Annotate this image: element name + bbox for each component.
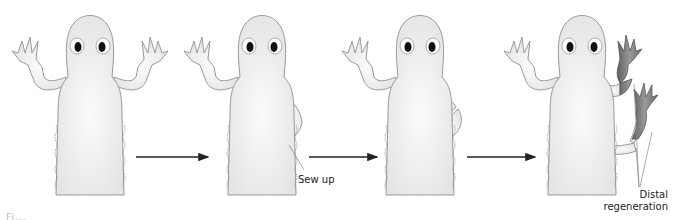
figure-caption-fragment: Fi... [6, 212, 27, 220]
regenerated-limb-upper [617, 35, 642, 95]
salamander-sewn [184, 16, 302, 196]
regenerated-limb-lower [632, 83, 658, 139]
distal-label-line2: regeneration [600, 201, 668, 213]
salamander-intact [12, 16, 168, 196]
limb-regeneration-diagram [0, 0, 674, 220]
distal-leader-3 [640, 132, 652, 187]
sew-up-label: Sew up [298, 174, 335, 186]
distal-regeneration-label: Distal regeneration [600, 189, 668, 213]
salamander-cut [342, 16, 461, 196]
distal-label-line1: Distal [600, 189, 668, 201]
